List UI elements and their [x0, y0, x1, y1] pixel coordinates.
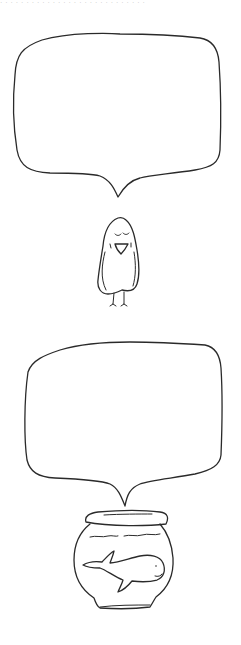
whale-icon: [0, 0, 241, 645]
comic-scene: [0, 0, 241, 645]
